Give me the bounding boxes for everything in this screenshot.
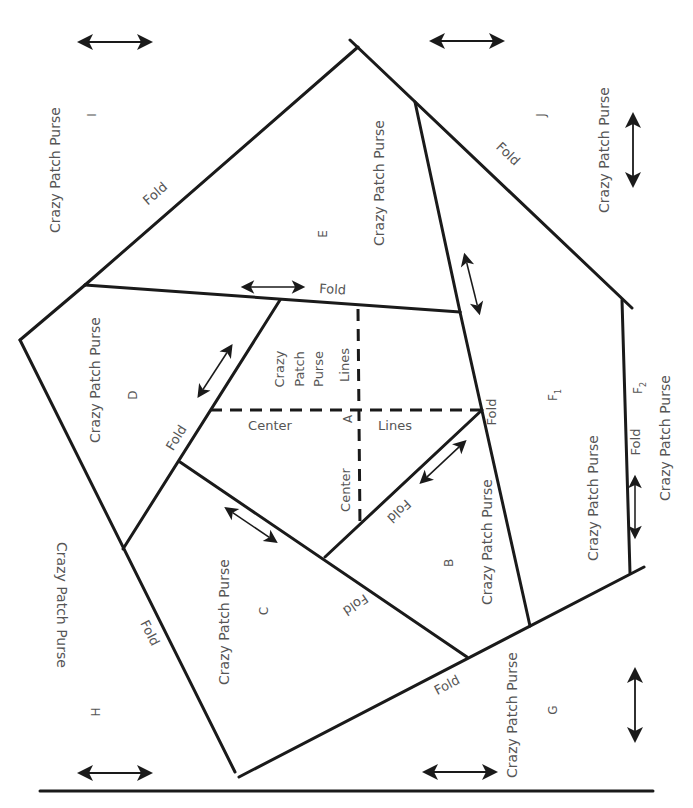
label-d: D [126,390,140,399]
grain-arrow-g [627,667,643,743]
outline-edges [20,40,653,791]
grain-arrow-h [77,765,153,781]
label-f2: F2 [631,382,648,394]
label-a: A [341,414,355,423]
label-c: C [257,607,271,615]
label-fold-b: Fold [384,497,414,526]
label-center-vertical: Center [338,467,353,511]
label-f1: F1 [546,389,563,401]
grain-arrow-d [192,340,239,402]
edge-top-left [20,285,85,340]
label-b: B [442,559,456,567]
label-h-purse: Crazy Patch Purse [54,542,70,668]
label-a-crazy: Crazy [272,350,287,387]
label-j-purse: Crazy Patch Purse [596,87,612,213]
edge-g-fold [239,567,644,777]
label-fold-f1: Fold [484,399,499,426]
grain-arrow-e-b [458,251,487,317]
label-lines-vertical: Lines [337,348,352,382]
seam-b-f1 [460,312,530,626]
label-f1-purse: Crazy Patch Purse [585,435,601,561]
label-g-purse: Crazy Patch Purse [504,652,520,778]
grain-arrow-e [241,280,306,294]
label-c-purse: Crazy Patch Purse [216,559,232,685]
label-e: E [316,230,330,238]
label-f2-purse: Crazy Patch Purse [657,375,673,501]
pattern-diagram: Crazy Patch Purse I Fold Crazy Patch Pur… [0,0,693,808]
label-lines-horizontal: Lines [378,418,412,433]
grain-arrow-g-bottom [422,764,498,780]
seam-d-e [85,285,460,312]
label-i-purse: Crazy Patch Purse [47,107,63,233]
seam-e-j [415,102,460,312]
label-i: I [85,113,99,117]
grain-arrow-j [625,112,641,188]
grain-arrow-i [77,34,153,50]
edge-i-e-fold [85,47,358,285]
label-g: G [546,705,560,714]
label-b-purse: Crazy Patch Purse [479,479,495,605]
grain-arrow-f2 [628,475,642,540]
label-fold-i: Fold [140,179,170,208]
label-fold-c: Fold [340,591,371,618]
center-line-vertical [358,309,360,528]
label-j: J [534,113,548,118]
grain-arrows [77,33,643,781]
label-fold-e: Fold [319,281,347,297]
edge-left-h-fold [20,340,235,772]
label-a-patch: Patch [292,351,307,387]
label-fold-j: Fold [493,139,523,168]
grain-arrow-b [415,435,472,489]
label-d-purse: Crazy Patch Purse [87,317,103,443]
label-center-horizontal: Center [248,418,292,433]
label-e-purse: Crazy Patch Purse [371,120,387,246]
grain-arrow-j-top [429,33,505,49]
label-fold-f2: Fold [628,429,643,456]
edge-j-fold [350,40,632,308]
label-a-purse: Purse [311,351,326,387]
label-h: H [88,707,102,716]
